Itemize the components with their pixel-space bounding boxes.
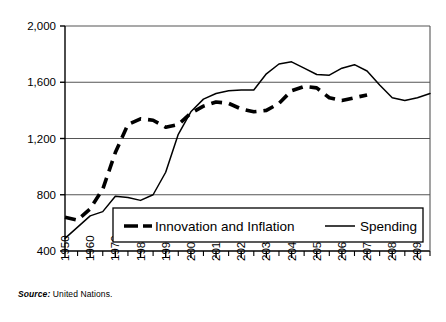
- y-axis-ticks: [60, 26, 65, 251]
- source-text: United Nations.: [53, 289, 113, 299]
- y-tick-label-1200: 1,200: [27, 133, 56, 145]
- chart-figure: 4008001,2001,6002,000 195019601970198019…: [0, 0, 446, 322]
- y-axis-tick-labels: 4008001,2001,6002,000: [27, 20, 56, 257]
- source-prefix: Source:: [18, 289, 50, 299]
- legend-label-innovation-and-inflation: Innovation and Inflation: [155, 219, 295, 234]
- x-tick-label-1960: 1960: [84, 235, 96, 261]
- line-chart: 4008001,2001,6002,000 195019601970198019…: [0, 0, 446, 322]
- y-tick-label-800: 800: [37, 189, 56, 201]
- chart-legend: Innovation and Inflation Spending: [113, 208, 423, 242]
- legend-label-spending: Spending: [360, 219, 417, 234]
- y-tick-label-1600: 1,600: [27, 76, 56, 88]
- x-tick-label-1950: 1950: [59, 235, 71, 261]
- y-tick-label-2000: 2,000: [27, 20, 56, 32]
- y-tick-label-400: 400: [37, 245, 56, 257]
- source-note: Source: United Nations.: [18, 289, 112, 299]
